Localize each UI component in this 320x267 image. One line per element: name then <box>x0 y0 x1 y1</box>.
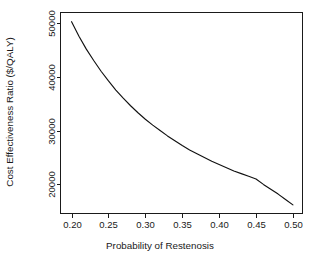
x-tick-label: 0.20 <box>63 219 82 230</box>
plot-box <box>61 13 303 214</box>
y-tick-label: 50000 <box>46 10 57 36</box>
series-line-cost-effectiveness-ratio <box>72 22 293 205</box>
y-tick-label: 30000 <box>46 118 57 144</box>
x-axis-title: Probability of Restenosis <box>106 240 214 251</box>
x-tick-label: 0.50 <box>284 219 303 230</box>
x-tick-label: 0.30 <box>136 219 155 230</box>
y-axis-tick-labels: 20000300004000050000 <box>46 10 57 197</box>
y-axis-ticks <box>57 24 61 185</box>
y-axis-title: Cost Effectiveness Ratio ($/QALY) <box>4 37 15 186</box>
x-tick-label: 0.40 <box>210 219 229 230</box>
x-tick-label: 0.35 <box>173 219 192 230</box>
x-axis-tick-labels: 0.200.250.300.350.400.450.50 <box>63 219 303 230</box>
y-tick-label: 20000 <box>46 171 57 197</box>
x-tick-label: 0.45 <box>247 219 266 230</box>
chart-figure: 0.200.250.300.350.400.450.50 20000300004… <box>0 0 320 267</box>
chart-canvas: 0.200.250.300.350.400.450.50 20000300004… <box>0 0 320 267</box>
data-series-line <box>72 22 293 205</box>
y-tick-label: 40000 <box>46 64 57 90</box>
plot-frame <box>61 13 303 214</box>
x-axis-ticks <box>73 214 294 218</box>
x-tick-label: 0.25 <box>99 219 118 230</box>
